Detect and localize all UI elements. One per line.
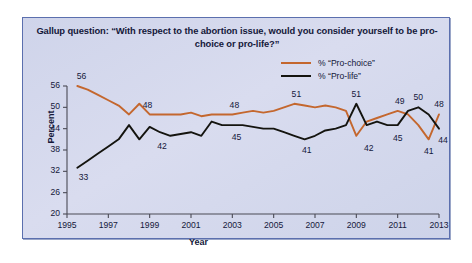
x-axis-label: Year xyxy=(189,237,208,247)
x-tick-label: 2007 xyxy=(297,220,333,230)
x-tick-label: 2013 xyxy=(421,220,457,230)
data-point-label: 41 xyxy=(293,145,321,155)
data-point-label: 45 xyxy=(384,133,412,143)
data-point-label: 51 xyxy=(282,89,310,99)
x-tick-label: 1999 xyxy=(132,220,168,230)
legend-label-pro-life: % “Pro-life” xyxy=(318,71,361,81)
legend-swatch-pro-life xyxy=(281,75,311,77)
y-tick-label: 56 xyxy=(33,80,60,90)
data-point-label: 33 xyxy=(70,172,98,182)
y-tick-label: 20 xyxy=(33,208,60,218)
x-tick-label: 1995 xyxy=(49,220,85,230)
legend-item-pro-life: % “Pro-life” xyxy=(281,69,445,82)
legend-item-pro-choice: % “Pro-choice” xyxy=(281,56,445,69)
data-point-label: 51 xyxy=(342,89,370,99)
chart-panel: Gallup question: “With respect to the ab… xyxy=(22,17,450,239)
data-point-label: 56 xyxy=(67,71,95,81)
data-point-label: 41 xyxy=(415,146,443,156)
data-point-label: 48 xyxy=(425,99,453,109)
plot-area: 20263238445056 1995199719992001200320052… xyxy=(67,86,439,214)
legend-label-pro-choice: % “Pro-choice” xyxy=(318,58,375,68)
data-point-label: 42 xyxy=(148,141,176,151)
data-point-label: 45 xyxy=(222,132,250,142)
x-tick-label: 2005 xyxy=(256,220,292,230)
x-tick-label: 1997 xyxy=(90,220,126,230)
x-tick-label: 2003 xyxy=(214,220,250,230)
data-point-label: 48 xyxy=(220,100,248,110)
x-tick-label: 2009 xyxy=(338,220,374,230)
chart-legend: % “Pro-choice” % “Pro-life” xyxy=(281,56,445,82)
y-tick-label: 26 xyxy=(33,187,60,197)
x-tick-label: 2011 xyxy=(380,220,416,230)
data-point-label: 42 xyxy=(355,143,383,153)
chart-title: Gallup question: “With respect to the ab… xyxy=(35,24,439,50)
y-axis-label: Percent xyxy=(46,92,56,162)
plot-svg xyxy=(67,86,439,214)
data-point-label: 44 xyxy=(429,135,457,145)
data-point-label: 48 xyxy=(134,100,162,110)
y-tick-label: 32 xyxy=(33,165,60,175)
x-tick-label: 2001 xyxy=(173,220,209,230)
legend-swatch-pro-choice xyxy=(281,62,311,64)
